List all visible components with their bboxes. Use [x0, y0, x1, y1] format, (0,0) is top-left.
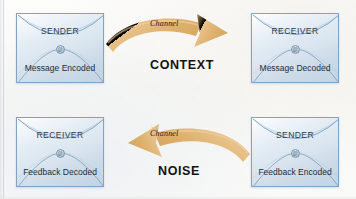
- envelope-role-label: RECEIVER: [252, 26, 338, 36]
- envelope-seal-icon: @: [291, 149, 300, 158]
- scan-bottom-artifact: [0, 196, 356, 199]
- envelope-action-label: Message Decoded: [252, 63, 338, 73]
- envelope-seal-icon: @: [56, 45, 65, 54]
- envelope-sender-message-encoded[interactable]: SENDER @ Message Encoded: [16, 13, 104, 83]
- envelope-sender-feedback-encoded[interactable]: SENDER @ Feedback Encoded: [251, 117, 339, 187]
- noise-label: NOISE: [158, 164, 200, 178]
- scan-edge-line: [3, 0, 4, 199]
- scan-edge-artifact: [0, 0, 4, 199]
- channel-label-bottom: Channel: [150, 129, 179, 138]
- context-label: CONTEXT: [150, 58, 214, 72]
- envelope-role-label: SENDER: [252, 130, 338, 140]
- envelope-seal-icon: @: [56, 149, 65, 158]
- diagram-canvas: SENDER @ Message Encoded RECEIVER @ Mess…: [0, 0, 356, 199]
- envelope-receiver-message-decoded[interactable]: RECEIVER @ Message Decoded: [251, 13, 339, 83]
- channel-label-top: Channel: [150, 19, 179, 28]
- envelope-action-label: Feedback Encoded: [252, 167, 338, 177]
- envelope-receiver-feedback-decoded[interactable]: RECEIVER @ Feedback Decoded: [16, 117, 104, 187]
- envelope-action-label: Feedback Decoded: [17, 167, 103, 177]
- envelope-role-label: RECEIVER: [17, 130, 103, 140]
- envelope-action-label: Message Encoded: [17, 63, 103, 73]
- envelope-seal-icon: @: [291, 45, 300, 54]
- envelope-role-label: SENDER: [17, 26, 103, 36]
